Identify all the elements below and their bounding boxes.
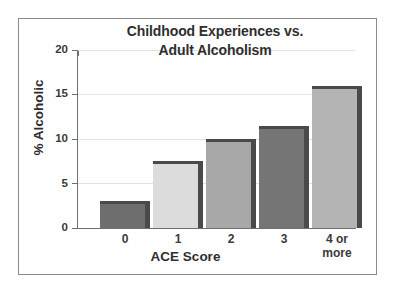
chart-title: Childhood Experiences vs. Adult Alcoholi… xyxy=(70,22,360,60)
x-tick-label-1: 1 xyxy=(153,232,203,246)
bar-face-0 xyxy=(100,201,150,228)
y-tick-label-10: 10 xyxy=(44,133,68,144)
y-tick-label-20: 20 xyxy=(44,44,68,55)
bar-face-3 xyxy=(259,126,309,228)
x-tick-label-0: 0 xyxy=(100,232,150,246)
x-tick-label-2: 2 xyxy=(206,232,256,246)
plot-area xyxy=(78,50,355,228)
bar-ace-3 xyxy=(259,126,309,228)
bar-face-4 xyxy=(312,86,362,228)
bar-ace-4-or-more xyxy=(312,86,362,228)
x-axis-title: ACE Score xyxy=(78,249,293,264)
bar-ace-1 xyxy=(153,161,203,228)
chart-title-line-1: Childhood Experiences vs. xyxy=(70,22,360,41)
x-tick-label-4-or-more: 4 or more xyxy=(312,232,362,260)
bar-face-2 xyxy=(206,139,256,228)
x-tick-label-4-line-1: 4 or xyxy=(326,232,348,246)
y-tick-label-5: 5 xyxy=(44,178,68,189)
y-tick-label-15: 15 xyxy=(44,88,68,99)
x-tick-label-4-line-2: more xyxy=(312,246,362,260)
x-axis-line xyxy=(78,228,356,229)
y-tick-label-0: 0 xyxy=(44,222,68,233)
chart-figure: Childhood Experiences vs. Adult Alcoholi… xyxy=(0,0,397,292)
bar-face-1 xyxy=(153,161,203,228)
x-tick-label-3: 3 xyxy=(259,232,309,246)
bar-ace-0 xyxy=(100,201,150,228)
bar-ace-2 xyxy=(206,139,256,228)
chart-title-line-2: Adult Alcoholism xyxy=(70,41,360,60)
y-tick-mark-0 xyxy=(72,228,78,229)
y-axis-tick-labels: 20 15 10 5 0 xyxy=(42,0,68,292)
